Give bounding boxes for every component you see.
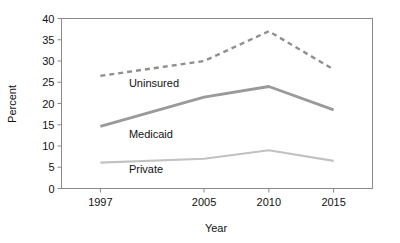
series-label-private: Private [129,163,163,175]
x-tick-label: 2010 [257,196,281,208]
y-tick-label: 10 [42,140,54,152]
x-tick-label: 1997 [88,196,112,208]
y-tick-label: 40 [42,13,54,25]
series-label-medicaid: Medicaid [129,128,173,140]
y-axis-title: Percent [6,85,18,123]
series-label-uninsured: Uninsured [129,77,179,89]
y-tick-label: 25 [42,76,54,88]
y-tick-label: 0 [48,183,54,195]
line-chart: 0510152025303540 1997200520102015 Uninsu… [0,0,400,243]
y-tick-label: 20 [42,98,54,110]
y-tick-label: 30 [42,55,54,67]
x-axis-title: Year [205,222,228,234]
x-tick-label: 2005 [192,196,216,208]
y-tick-label: 5 [48,161,54,173]
y-tick-label: 15 [42,119,54,131]
y-tick-label: 35 [42,34,54,46]
x-tick-label: 2015 [321,196,345,208]
chart-canvas: 0510152025303540 1997200520102015 Uninsu… [0,0,400,243]
